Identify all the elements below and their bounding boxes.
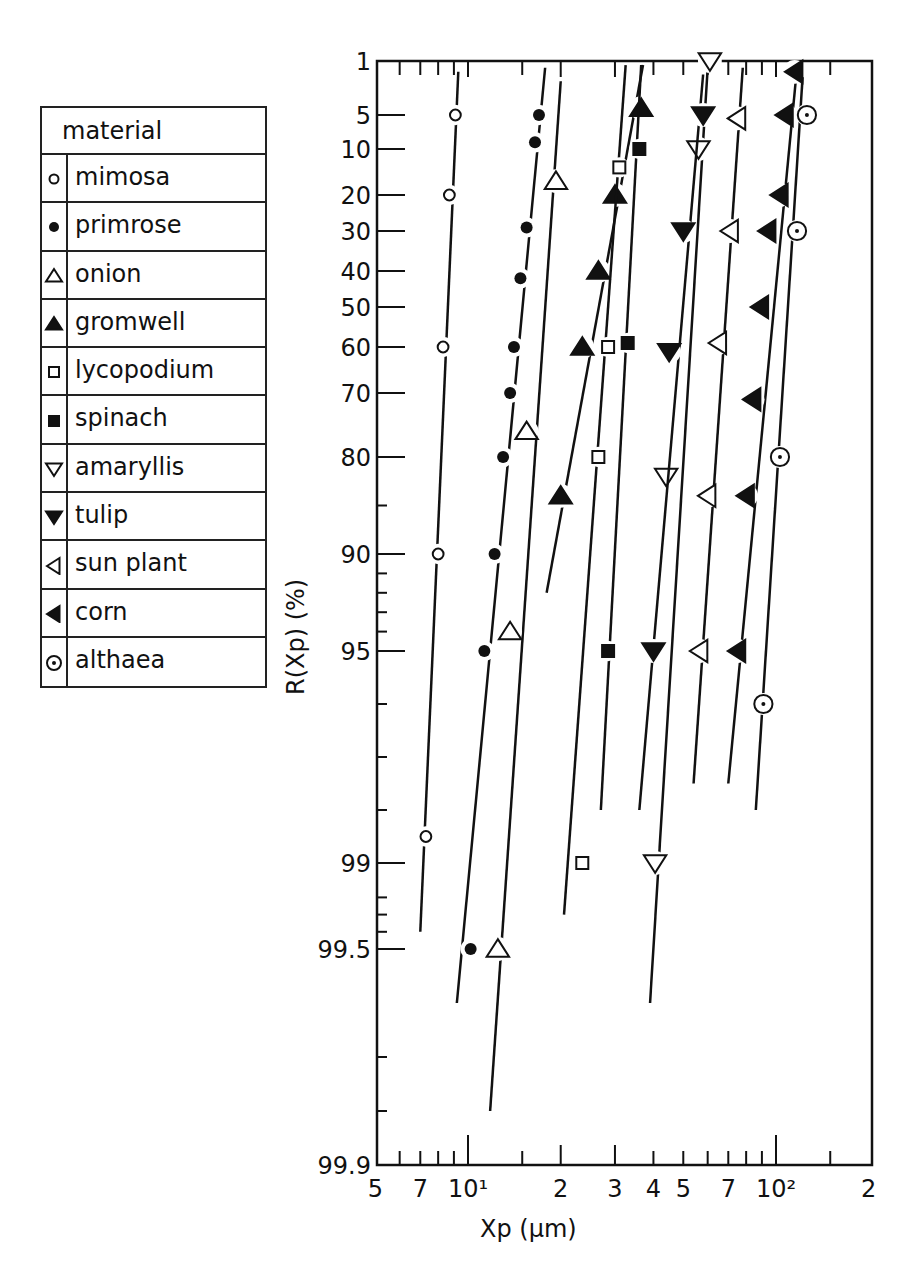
y-tick-label: 70	[340, 380, 371, 408]
x-tick-label: 10²	[756, 1175, 796, 1203]
x-tick-label: 7	[413, 1175, 428, 1203]
y-tick-label: 10	[340, 136, 371, 164]
y-tick-label: 80	[340, 444, 371, 472]
chart: 5710¹2345710²215102030405060708090959999…	[0, 0, 912, 1275]
y-tick-label: 50	[340, 294, 371, 322]
x-tick-label: 10¹	[448, 1175, 488, 1203]
y-tick-label: 60	[340, 334, 371, 362]
series-primrose	[457, 68, 549, 1003]
x-axis-label: Xp (μm)	[480, 1215, 577, 1243]
series-amaryllis	[643, 49, 722, 1003]
y-tick-label: 1	[356, 48, 371, 76]
y-tick-label: 5	[356, 102, 371, 130]
x-tick-label: 4	[646, 1175, 661, 1203]
series-mimosa	[416, 72, 466, 932]
y-tick-label: 99	[340, 850, 371, 878]
x-tick-label: 7	[721, 1175, 736, 1203]
y-tick-label: 95	[340, 638, 371, 666]
series-tulip	[639, 75, 715, 811]
series-corn	[726, 60, 807, 784]
y-tick-label: 40	[340, 258, 371, 286]
y-axis-label: R(Xp) (%)	[282, 579, 310, 695]
y-tick-label: 30	[340, 218, 371, 246]
x-tick-label: 2	[553, 1175, 568, 1203]
series-sun-plant	[688, 68, 750, 784]
series-layer	[416, 49, 818, 1111]
y-tick-label: 99.9	[318, 1152, 371, 1180]
y-tick-label: 90	[340, 541, 371, 569]
x-tick-label: 3	[607, 1175, 622, 1203]
x-tick-label: 5	[676, 1175, 691, 1203]
y-tick-label: 20	[340, 182, 371, 210]
y-tick-label: 99.5	[318, 936, 371, 964]
x-tick-label: 2	[861, 1175, 876, 1203]
